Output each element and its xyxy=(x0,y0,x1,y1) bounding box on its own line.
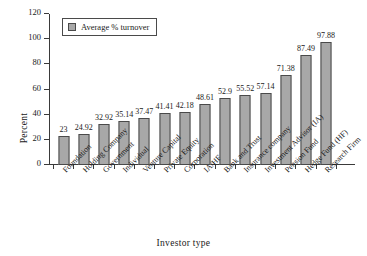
bar-item: 24.92 xyxy=(74,14,94,165)
bar-value-label: 52.9 xyxy=(218,87,232,96)
bar xyxy=(220,98,231,165)
y-axis-tick-label: 60 xyxy=(33,83,42,93)
bar-value-label: 71.38 xyxy=(277,64,295,73)
chart-legend: Average % turnover xyxy=(62,18,157,36)
bar-value-label: 24.92 xyxy=(75,123,93,132)
bar-value-label: 87.49 xyxy=(297,44,315,53)
x-axis-title: Investor type xyxy=(0,238,367,248)
bar-item: 23 xyxy=(53,14,73,165)
bar-value-label: 32.92 xyxy=(95,113,113,122)
legend-label: Average % turnover xyxy=(81,22,149,32)
y-axis-tick-label: 80 xyxy=(33,57,42,67)
y-axis-tick-label: 0 xyxy=(37,158,41,168)
bar-value-label: 23 xyxy=(60,125,68,134)
y-axis-tick-label: 20 xyxy=(33,133,42,143)
bar-value-label: 97.88 xyxy=(317,31,335,40)
bar-chart: Percent 020406080100120 2324.9232.9235.1… xyxy=(0,0,367,256)
bar-value-label: 48.61 xyxy=(196,93,214,102)
bar-item: 37.47 xyxy=(134,14,154,165)
bar-value-label: 42.18 xyxy=(176,101,194,110)
bar-item: 52.9 xyxy=(215,14,235,165)
legend-swatch-icon xyxy=(68,23,76,31)
y-axis-tick-label: 40 xyxy=(33,108,42,118)
bar-value-label: 55.52 xyxy=(236,84,254,93)
bar-value-label: 35.14 xyxy=(115,110,133,119)
y-axis-title: Percent xyxy=(19,113,29,144)
bar-value-label: 41.41 xyxy=(156,102,174,111)
bar-value-label: 37.47 xyxy=(135,107,153,116)
bar-value-label: 57.14 xyxy=(257,82,275,91)
y-axis-tick-label: 100 xyxy=(28,32,41,42)
y-axis-tick-label: 120 xyxy=(28,7,41,17)
x-axis-tick-labels: FoundationHolding CompanyGovernmentIndiv… xyxy=(49,168,355,228)
